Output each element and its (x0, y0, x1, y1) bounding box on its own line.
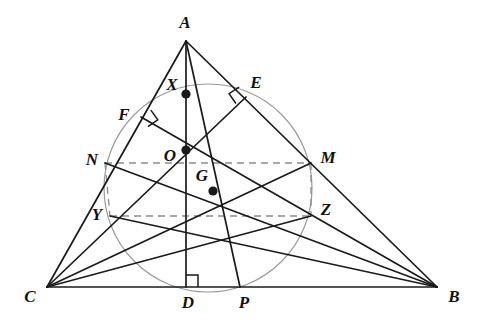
point-label-y: Y (92, 206, 102, 223)
solid-segments-group (47, 41, 437, 287)
point-label-f: F (118, 106, 129, 123)
point-label-a: A (179, 14, 190, 31)
point-label-p: P (239, 294, 249, 311)
point-label-x: X (166, 76, 177, 93)
point-label-g: G (196, 167, 208, 184)
point-label-o: O (164, 147, 176, 164)
point-label-n: N (86, 151, 98, 168)
right-angle-at-E (229, 87, 239, 103)
point-dot-x (181, 89, 190, 98)
point-label-c: C (24, 288, 35, 305)
nine-point-circle-group (104, 84, 312, 292)
point-dot-g (208, 186, 217, 195)
cevian-AP (186, 41, 240, 287)
figure-canvas: AEXFNOMGYZCDPB (0, 0, 483, 329)
point-label-d: D (182, 294, 194, 311)
point-label-e: E (250, 74, 261, 91)
point-label-m: M (320, 149, 335, 166)
point-label-b: B (448, 288, 459, 305)
point-dot-o (181, 145, 190, 154)
geometry-figure (0, 0, 483, 329)
point-label-z: Z (321, 201, 331, 218)
right-angle-at-D (186, 275, 198, 287)
nine-point-circle (104, 84, 312, 292)
